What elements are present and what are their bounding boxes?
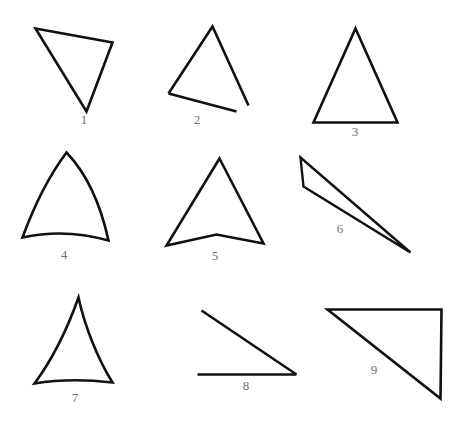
figure-9-outline [328, 310, 442, 399]
figure-1-label: 1 [72, 113, 96, 126]
figure-6-label: 6 [328, 222, 352, 235]
figure-8-outline [198, 311, 297, 375]
figure-1-outline [36, 29, 113, 112]
figure-7-label: 7 [63, 391, 87, 404]
shapes-layer [0, 0, 463, 425]
figure-4-outline [23, 153, 109, 241]
figure-sheet: 123456789 [0, 0, 463, 425]
figure-6-outline [301, 158, 411, 253]
figure-4-label: 4 [52, 248, 76, 261]
figure-3-label: 3 [343, 125, 367, 138]
figure-9-label: 9 [362, 363, 386, 376]
figure-5-outline [167, 159, 264, 246]
figure-7-outline [35, 298, 113, 384]
figure-3-outline [314, 29, 398, 123]
figure-2-label: 2 [185, 113, 209, 126]
figure-5-label: 5 [203, 249, 227, 262]
figure-8-label: 8 [234, 379, 258, 392]
figure-2-outline [169, 27, 249, 112]
